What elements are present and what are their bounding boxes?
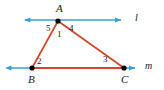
angle-label-3: 3	[103, 55, 108, 64]
line-l	[24, 17, 121, 22]
point-b-dot	[29, 65, 34, 70]
point-label-a: A	[56, 3, 63, 14]
geometry-figure: A B C l m 5 1 4 2 3	[0, 0, 164, 90]
line-m-left-arrowhead	[5, 65, 11, 70]
line-l-left-arrowhead	[24, 17, 30, 22]
angle-label-1: 1	[57, 30, 62, 39]
angle-label-4: 4	[69, 24, 74, 33]
triangle-side-ab	[32, 21, 58, 68]
angle-label-2: 2	[37, 57, 42, 66]
line-label-m: m	[145, 61, 152, 71]
point-a-dot	[55, 18, 60, 23]
line-label-l: l	[135, 13, 138, 23]
triangle-side-ac	[58, 21, 124, 68]
diagram-canvas	[0, 0, 164, 90]
point-c-dot	[121, 65, 126, 70]
point-label-b: B	[28, 74, 35, 85]
point-label-c: C	[121, 74, 128, 85]
angle-label-5: 5	[46, 24, 51, 33]
